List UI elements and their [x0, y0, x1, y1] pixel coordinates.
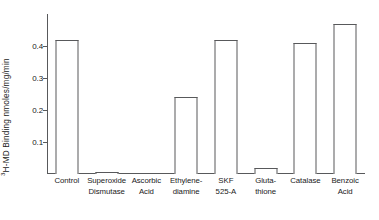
- bar: [214, 40, 237, 174]
- plot-area: [47, 14, 365, 174]
- y-axis-title: 3H-MD Binding nmoles/mg/min: [2, 58, 10, 176]
- y-axis-tick-labels: 0.10.20.30.4: [18, 0, 43, 220]
- x-axis-category-label-line: 525-A: [206, 187, 246, 198]
- y-axis-title-text: H-MD Binding nmoles/mg/min: [1, 58, 11, 172]
- bar-chart-figure: 3H-MD Binding nmoles/mg/min 0.10.20.30.4…: [0, 0, 379, 220]
- x-axis-category-label-line: Ethylene-: [166, 176, 206, 187]
- y-axis-tick-label: 0.3: [19, 74, 43, 83]
- x-axis-category-label-line: Control: [47, 176, 87, 187]
- x-axis-category-label-line: Acid: [325, 187, 365, 198]
- x-axis-category-label: SKF525-A: [206, 176, 246, 197]
- bar-slot: [286, 14, 326, 174]
- bar-slot: [47, 14, 87, 174]
- y-axis-tick-mark: [43, 78, 48, 79]
- bar-series: [47, 14, 365, 174]
- y-axis-tick-label: 0.1: [19, 138, 43, 147]
- x-axis-category-label-line: Benzoic: [325, 176, 365, 187]
- x-axis-category-label-line: Catalase: [286, 176, 326, 187]
- bar-slot: [166, 14, 206, 174]
- x-axis-category-label: Gluta-thione: [246, 176, 286, 197]
- y-axis-tick-label: 0.2: [19, 106, 43, 115]
- x-axis-category-label: Ethylene-diamine: [166, 176, 206, 197]
- x-axis-category-label-line: diamine: [166, 187, 206, 198]
- x-axis-category-label-line: Superoxide: [87, 176, 127, 187]
- bar: [55, 40, 78, 174]
- y-axis-tick-mark: [43, 46, 48, 47]
- y-axis-title-superscript: 3: [0, 172, 6, 176]
- x-axis-category-label-line: Gluta-: [246, 176, 286, 187]
- x-axis-category-label: Control: [47, 176, 87, 187]
- x-axis-category-label: BenzoicAcid: [325, 176, 365, 197]
- y-axis-tick-label: 0.4: [19, 42, 43, 51]
- bar-slot: [246, 14, 286, 174]
- bar: [175, 97, 198, 174]
- y-axis-tick-mark: [43, 142, 48, 143]
- bar: [294, 43, 317, 174]
- x-axis-category-labels: ControlSuperoxideDismutaseAscorbicAcidEt…: [47, 176, 365, 220]
- y-axis-tick-mark: [43, 110, 48, 111]
- bar-slot: [87, 14, 127, 174]
- y-axis-title-container: 3H-MD Binding nmoles/mg/min: [0, 0, 18, 180]
- bar-slot: [127, 14, 167, 174]
- x-axis-category-label-line: Acid: [127, 187, 167, 198]
- x-axis-category-label: AscorbicAcid: [127, 176, 167, 197]
- bar-slot: [325, 14, 365, 174]
- x-axis-category-label-line: thione: [246, 187, 286, 198]
- x-axis-category-label: SuperoxideDismutase: [87, 176, 127, 197]
- x-axis-category-label-line: Ascorbic: [127, 176, 167, 187]
- bar: [334, 24, 357, 174]
- bar: [254, 168, 277, 174]
- x-axis-category-label: Catalase: [286, 176, 326, 187]
- x-axis-category-label-line: SKF: [206, 176, 246, 187]
- x-axis-category-label-line: Dismutase: [87, 187, 127, 198]
- bar: [95, 172, 118, 174]
- bar-slot: [206, 14, 246, 174]
